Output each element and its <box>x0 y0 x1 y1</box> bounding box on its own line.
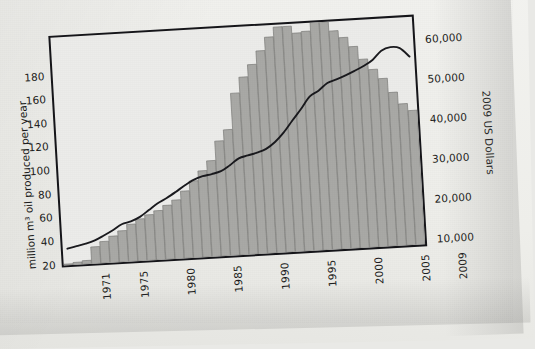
y2-tick-label: 50,000 <box>427 71 465 85</box>
bar <box>91 247 101 264</box>
y2-tick-label: 20,000 <box>434 190 472 204</box>
y-tick-label: 140 <box>9 117 48 131</box>
y-tick-label: 100 <box>12 164 51 178</box>
bar <box>82 260 91 264</box>
y2-tick-label: 40,000 <box>429 111 467 125</box>
bar <box>64 264 73 266</box>
x-tick-label: 2005 <box>419 254 433 282</box>
y-tick-label: 180 <box>6 70 45 84</box>
bar <box>118 231 129 263</box>
plot-area <box>48 15 427 268</box>
x-tick-label: 2000 <box>372 257 386 285</box>
x-tick-label: 2009 <box>456 252 470 280</box>
y-tick-label: 20 <box>17 259 56 273</box>
x-tick-label: 1980 <box>184 268 198 296</box>
bar <box>100 241 110 263</box>
y-tick-label: 80 <box>13 188 52 202</box>
y2-tick-label: 60,000 <box>425 31 463 45</box>
x-tick-label: 1971 <box>99 273 113 301</box>
y-tick-label: 120 <box>10 140 49 154</box>
x-tick-label: 1975 <box>137 270 151 298</box>
y-tick-label: 60 <box>15 211 54 225</box>
bar <box>73 262 82 265</box>
x-tick-label: 1985 <box>231 265 245 293</box>
y2-tick-label: 10,000 <box>436 230 474 244</box>
x-tick-label: 1995 <box>325 259 339 287</box>
y2-axis-title: 2009 US Dollars <box>480 90 497 175</box>
y2-tick-label: 30,000 <box>432 151 470 165</box>
y-tick-label: 40 <box>16 235 55 249</box>
bar <box>109 236 119 263</box>
plot-canvas <box>50 17 425 266</box>
bar-group <box>51 17 425 266</box>
x-tick-label: 1990 <box>278 262 292 290</box>
chart-figure: million m³ oil produced per year 2009 US… <box>0 0 526 343</box>
y-tick-label: 160 <box>8 93 47 107</box>
